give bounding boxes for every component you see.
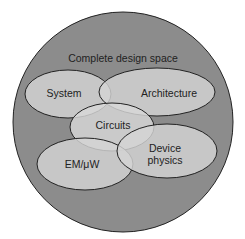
circuits-label: Circuits (95, 119, 130, 131)
architecture-label: Architecture (141, 87, 197, 99)
em-uw-label: EM/μW (65, 158, 100, 170)
system-label: System (46, 87, 81, 99)
device-physics-label-line1: Device (149, 142, 181, 154)
design-space-diagram: Complete design space System Architectur… (0, 0, 245, 239)
complete-design-space-label: Complete design space (68, 52, 178, 64)
device-physics-label-line2: physics (147, 154, 182, 166)
